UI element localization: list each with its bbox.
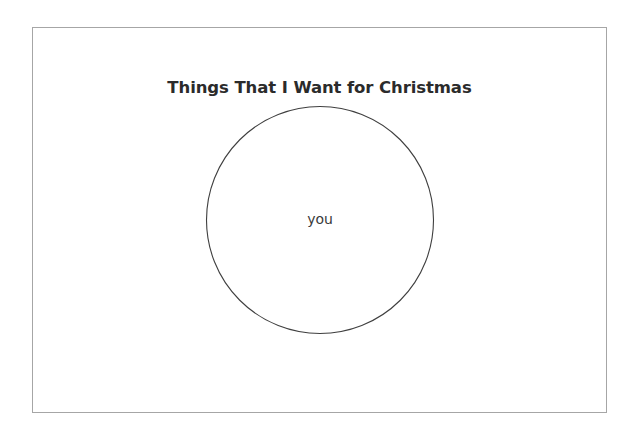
venn-label-set-1: you: [220, 210, 420, 228]
page-title: Things That I Want for Christmas: [0, 78, 639, 98]
slide-canvas: Things That I Want for Christmas you: [0, 0, 639, 435]
